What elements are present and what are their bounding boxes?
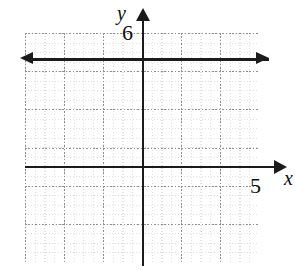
plotted-line: [31, 58, 269, 61]
y-axis-tick-label-6: 6: [122, 22, 133, 44]
plotted-line-right-arrowhead-icon: [256, 52, 269, 64]
y-axis-arrowhead-icon: [136, 8, 150, 21]
plotted-line-left-arrowhead-icon: [20, 52, 33, 64]
x-axis-label: x: [284, 168, 293, 188]
x-axis: [25, 166, 276, 168]
graph-figure: y x 6 5: [0, 0, 305, 270]
y-axis: [142, 17, 144, 266]
x-axis-tick-label-5: 5: [250, 175, 261, 197]
